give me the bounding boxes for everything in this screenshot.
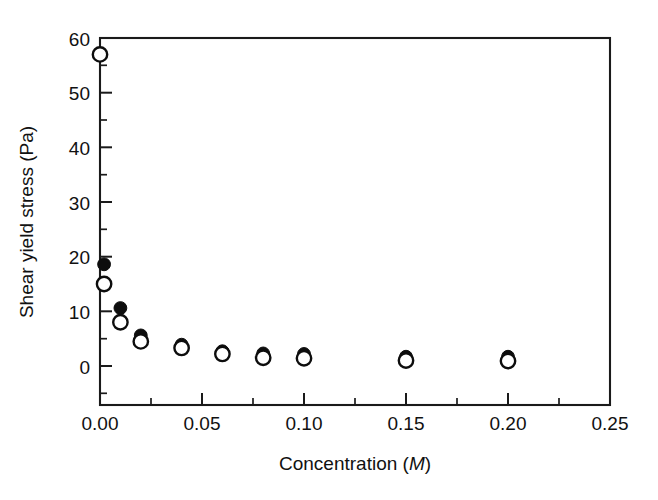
data-point-open — [399, 353, 413, 367]
data-point-open — [113, 315, 127, 329]
x-tick-label: 0.05 — [184, 413, 221, 434]
x-axis-title: Concentration (M) — [279, 453, 431, 474]
x-axis-title-text: Concentration ( — [279, 453, 410, 474]
y-tick-label: 0 — [79, 357, 90, 378]
y-axis-title: Shear yield stress (Pa) — [16, 126, 37, 318]
x-tick-label: 0.15 — [388, 413, 425, 434]
y-tick-label: 40 — [69, 138, 90, 159]
data-point-open — [134, 334, 148, 348]
data-point-open — [174, 341, 188, 355]
x-axis-title-italic: M — [409, 453, 425, 474]
data-point-open — [97, 277, 111, 291]
y-tick-label: 60 — [69, 29, 90, 50]
y-tick-label: 10 — [69, 302, 90, 323]
x-axis-title-tail: ) — [425, 453, 431, 474]
data-point-filled — [98, 258, 111, 271]
chart-page: 60 50 40 30 20 10 0 0.00 0. — [0, 0, 658, 500]
data-point-open — [215, 347, 229, 361]
data-point-open — [501, 354, 515, 368]
y-tick-label: 30 — [69, 193, 90, 214]
x-tick-label: 0.10 — [286, 413, 323, 434]
data-point-open — [297, 351, 311, 365]
y-tick-label: 20 — [69, 247, 90, 268]
scatter-chart-figure: 60 50 40 30 20 10 0 0.00 0. — [0, 0, 658, 500]
x-tick-label: 0.20 — [490, 413, 527, 434]
y-tick-label: 50 — [69, 83, 90, 104]
x-tick-label: 0.25 — [592, 413, 629, 434]
data-point-filled — [114, 302, 127, 315]
data-point-open — [256, 351, 270, 365]
data-point-open — [93, 47, 107, 61]
x-tick-label: 0.00 — [82, 413, 119, 434]
